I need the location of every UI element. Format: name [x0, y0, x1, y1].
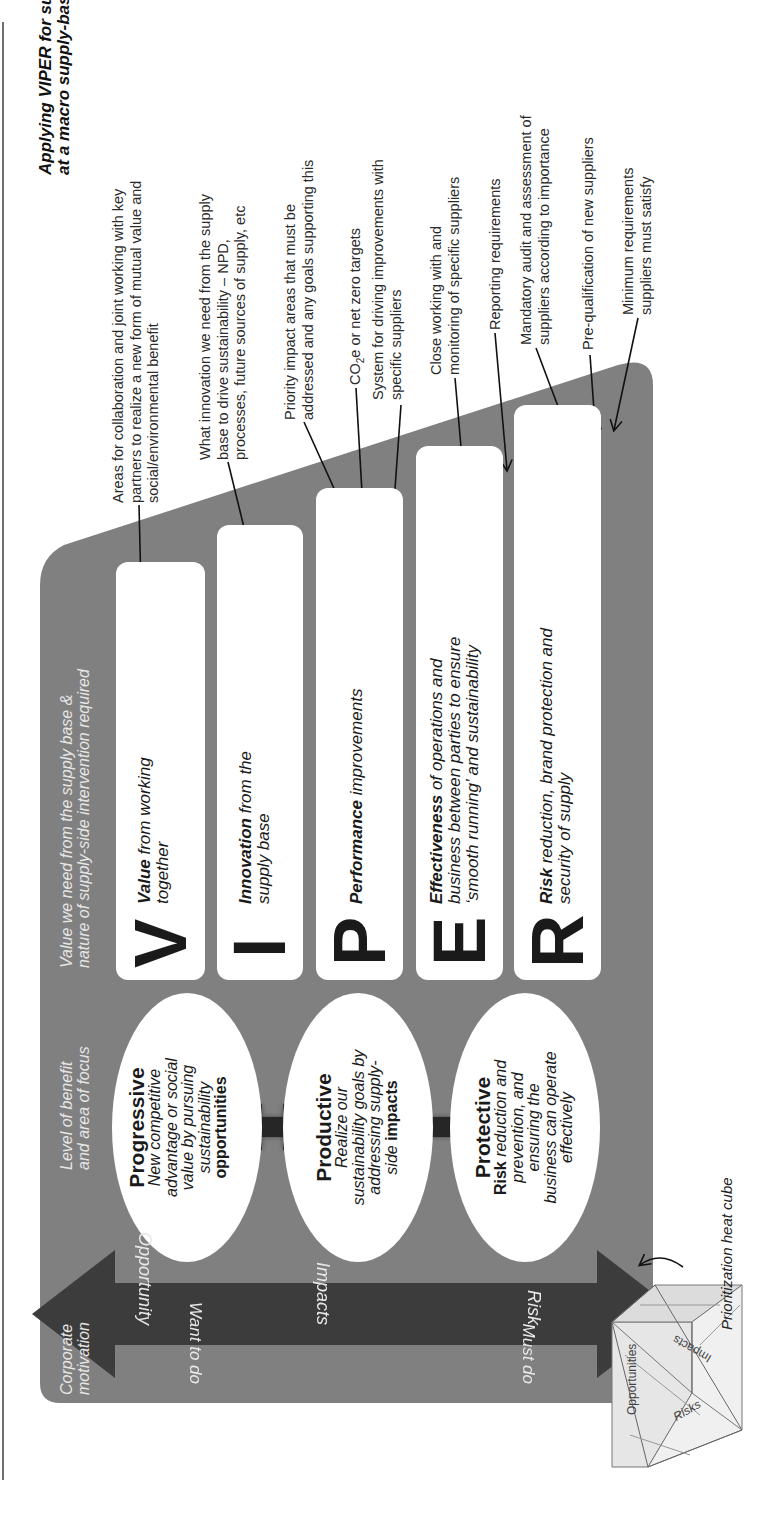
annotation-effectiveness-1: Close working with and monitoring of spe… — [428, 177, 463, 375]
annotation-effectiveness-2: Reporting requirements — [487, 178, 505, 330]
viper-box-effectiveness: E Effectiveness of operations and busine… — [416, 446, 503, 980]
protective-text: Protective Risk reduction and prevention… — [472, 993, 576, 1262]
ellipse-protective: Protective Risk reduction and prevention… — [450, 993, 600, 1262]
viper-performance-text: Performance improvements — [348, 689, 366, 904]
viper-effectiveness-text: Effectiveness of operations and business… — [428, 637, 482, 904]
letter-i: I — [223, 937, 297, 958]
viper-box-performance: P Performance improvements — [316, 488, 403, 980]
annotation-performance-3: System for driving improvements with spe… — [370, 159, 405, 400]
diagram-landscape-frame: Applying VIPER for sustainable procureme… — [0, 0, 775, 1515]
letter-e: E — [423, 917, 497, 966]
viper-box-value: V Value from working together — [116, 562, 205, 980]
arrow-label-opportunity: Opportunity — [134, 1232, 155, 1325]
protective-heading: Protective — [472, 993, 493, 1262]
annotation-value: Areas for collaboration and joint workin… — [110, 181, 163, 503]
ellipse-productive: Productive Realize our sustainability go… — [283, 993, 433, 1262]
letter-r: R — [521, 915, 595, 968]
viper-innovation-text: Innovation from the supply base — [237, 751, 273, 904]
viper-box-risk: R Risk reduction, brand protection and s… — [514, 405, 601, 980]
cube-label-opportunities: Opportunities — [625, 1344, 639, 1415]
annotation-risk-1: Mandatory audit and assessment of suppli… — [518, 115, 553, 345]
progressive-text: Progressive New competitive advantage or… — [126, 993, 230, 1262]
ellipse-progressive: Progressive New competitive advantage or… — [112, 993, 262, 1262]
annotation-risk-2: Pre-qualification of new suppliers — [580, 137, 598, 350]
page-title: Applying VIPER for sustainable procureme… — [37, 0, 73, 175]
annotation-risk-3: Minimum requirements suppliers must sati… — [620, 168, 655, 315]
productive-text: Productive Realize our sustainability go… — [313, 993, 400, 1262]
arrow-label-want-to-do: Want to do — [185, 1302, 205, 1384]
header-level-of-benefit: Level of benefit and area of focus — [58, 1046, 92, 1170]
productive-heading: Productive — [313, 993, 334, 1262]
header-value-needed: Value we need from the supply base & nat… — [58, 669, 92, 968]
annotation-performance-1: Priority impact areas that must be addre… — [282, 160, 317, 420]
annotation-innovation: What innovation we need from the supply … — [197, 194, 250, 460]
letter-p: P — [323, 917, 397, 966]
progressive-heading: Progressive — [126, 993, 147, 1262]
viper-value-text: Value from working together — [136, 757, 172, 904]
arrow-label-impacts: Impacts — [312, 1262, 333, 1325]
title-line-2: at a macro supply-base-wide level — [55, 0, 73, 175]
viper-box-innovation: I Innovation from the supply base — [217, 525, 303, 980]
annotation-performance-2: CO2e or net zero targets — [347, 228, 369, 385]
header-corporate-motivation: Corporate motivation — [58, 1322, 92, 1395]
letter-v: V — [124, 919, 198, 968]
cube-caption: Prioritization heat cube — [718, 1177, 735, 1330]
arrow-label-risk: Risk — [523, 1290, 544, 1325]
title-line-1: Applying VIPER for sustainable procureme… — [37, 0, 55, 175]
arrow-label-must-do: Must do — [518, 1324, 538, 1384]
viper-risk-text: Risk reduction, brand protection and sec… — [538, 628, 574, 904]
